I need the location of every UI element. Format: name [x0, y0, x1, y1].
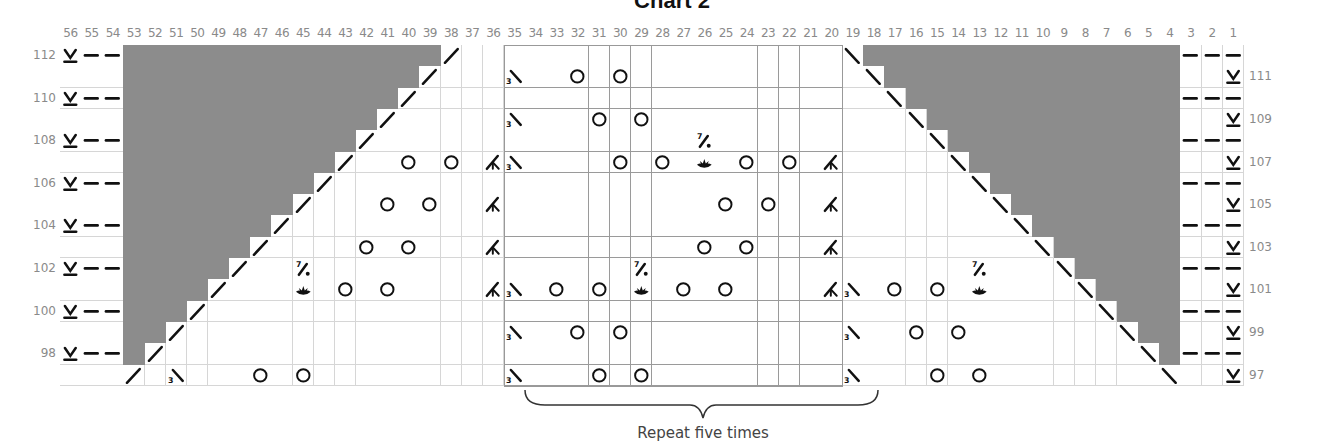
repeat-label: Repeat five times: [528, 424, 878, 442]
repeat-brace-icon: [0, 0, 1344, 446]
